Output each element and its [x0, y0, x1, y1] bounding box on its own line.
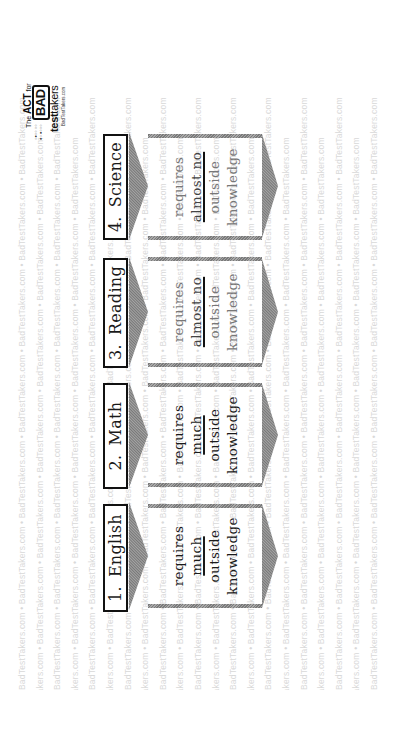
box-edge	[148, 236, 262, 240]
chevron-down-icon	[129, 257, 149, 367]
bubble-sheet-icon: ○●○○ ○○●○ ●○○○	[34, 122, 43, 140]
watermark-line: BadTestTakers.com • BadTestTakers.com • …	[32, 50, 50, 690]
infographic-canvas: BadTestTakers.com • BadTestTakers.com • …	[0, 0, 401, 740]
section-description: requires much outside knowledge	[150, 508, 260, 604]
watermark-line: BadTestTakers.com • BadTestTakers.com • …	[14, 50, 32, 690]
box-edge	[148, 604, 262, 608]
section-description: requires much outside knowledge	[150, 387, 260, 483]
watermark-line: BadTestTakers.com • BadTestTakers.com • …	[296, 50, 314, 690]
section-description: requires almost no outside knowledge	[150, 261, 260, 363]
box-edge	[148, 483, 262, 487]
section-header: 1. English	[103, 504, 128, 612]
section-header: 3. Reading	[103, 258, 128, 368]
watermark-line: BadTestTakers.com • BadTestTakers.com • …	[49, 50, 67, 690]
section-header: 2. Math	[103, 383, 128, 489]
watermark-line: BadTestTakers.com • BadTestTakers.com • …	[348, 50, 366, 690]
act-for-bad-test-takers-logo: The ACT for ○●○○ ○○●○ ●○○○ BAD testtaker…	[22, 62, 66, 142]
section-description: requires almost no outside knowledge	[150, 138, 260, 236]
chevron-down-icon	[262, 382, 279, 488]
logo-wordmark: testtakers	[48, 85, 60, 132]
chevron-down-icon	[262, 257, 279, 367]
watermark-line: BadTestTakers.com • BadTestTakers.com • …	[278, 50, 296, 690]
watermark-line: BadTestTakers.com • BadTestTakers.com • …	[67, 50, 85, 690]
box-edge	[148, 363, 262, 367]
emphasis-text: much	[187, 536, 205, 575]
watermark-line: BadTestTakers.com • BadTestTakers.com • …	[313, 50, 331, 690]
emphasis-text: almost no	[187, 152, 205, 222]
section-header: 4. Science	[103, 134, 128, 240]
watermark-line: BadTestTakers.com • BadTestTakers.com • …	[331, 50, 349, 690]
logo-url: BadTestTakers.com	[61, 87, 66, 126]
chevron-down-icon	[262, 132, 279, 240]
chevron-down-icon	[129, 132, 149, 240]
chevron-down-icon	[129, 502, 149, 610]
watermark-line: BadTestTakers.com • BadTestTakers.com • …	[366, 50, 384, 690]
watermark-line: BadTestTakers.com • BadTestTakers.com • …	[84, 50, 102, 690]
chevron-down-icon	[129, 382, 149, 488]
emphasis-text: almost no	[187, 277, 205, 347]
emphasis-text: much	[187, 415, 205, 454]
chevron-down-icon	[262, 502, 279, 610]
